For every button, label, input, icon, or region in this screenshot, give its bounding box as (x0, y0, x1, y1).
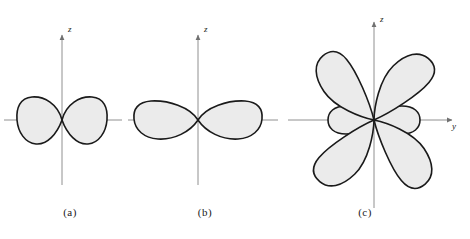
panel-caption-a: (a) (40, 206, 100, 218)
panel-c-axis-z-label: z (379, 14, 384, 24)
panel-b: z (128, 24, 278, 185)
panel-a-lobe-right (62, 97, 107, 144)
panel-b-lobe-right (198, 101, 262, 139)
orbital-diagram-figure: z z y z (0, 0, 470, 239)
panel-caption-b: (b) (175, 206, 235, 218)
panel-c-axis-y-label: y (451, 121, 456, 131)
panel-a: z (4, 24, 122, 185)
panel-a-lobe-left (17, 97, 62, 144)
panel-b-axis-z-label: z (203, 24, 208, 34)
panel-b-lobe-left (134, 101, 198, 139)
panel-c: y z (288, 14, 456, 208)
panel-a-axis-z-label: z (67, 24, 72, 34)
panel-caption-c: (c) (335, 206, 395, 218)
